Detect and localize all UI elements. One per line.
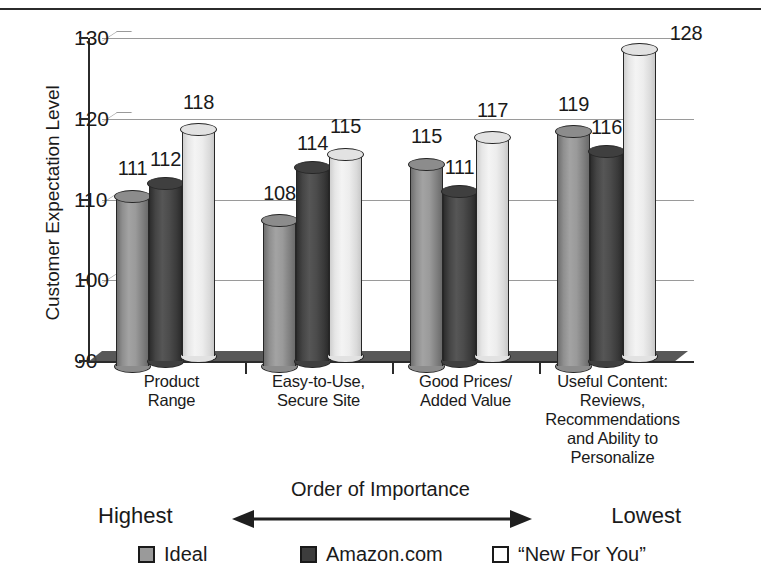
- bar-cylinder: [590, 151, 623, 361]
- bar-cylinder: [329, 154, 362, 356]
- plot-area: 90100110120130 1111121181081141151151111…: [88, 30, 694, 366]
- order-of-importance-row: Highest Lowest: [0, 503, 761, 537]
- page-top-rule: [0, 8, 761, 10]
- x-category-label: Easy-to-Use, Secure Site: [239, 372, 399, 410]
- bar-top-ellipse: [408, 158, 444, 171]
- bar-value-label: 118: [183, 91, 214, 114]
- bar-cylinder: [182, 130, 215, 356]
- y-tick-mark: [79, 118, 88, 120]
- bar-body: [476, 138, 509, 356]
- bar-body: [590, 151, 623, 361]
- x-category-label: Product Range: [92, 372, 252, 410]
- bar-body: [557, 132, 590, 366]
- bar-top-ellipse: [621, 43, 657, 56]
- legend-label: “New For You”: [518, 543, 646, 566]
- legend-label: Ideal: [164, 543, 207, 566]
- order-label-lowest: Lowest: [611, 503, 681, 529]
- bar-cylinder: [557, 132, 590, 366]
- bar-value-label: 108: [263, 182, 295, 205]
- bar-value-label: 115: [411, 125, 442, 148]
- bar-body: [182, 130, 215, 356]
- bar-cylinder: [263, 221, 296, 366]
- bar-top-ellipse: [147, 177, 183, 190]
- bar-body: [149, 183, 182, 361]
- bar-value-label: 116: [591, 116, 622, 139]
- legend: IdealAmazon.com“New For You”: [0, 543, 761, 573]
- bar-value-label: 114: [297, 132, 328, 155]
- bar-value-label: 115: [330, 115, 361, 138]
- bar-body: [410, 164, 443, 366]
- bar-top-ellipse: [261, 214, 297, 227]
- legend-swatch-icon: [300, 546, 317, 563]
- bar-cylinder: [443, 191, 476, 361]
- bar-cylinder: [149, 183, 182, 361]
- y-tick-mark: [79, 199, 88, 201]
- bar-value-label: 128: [670, 22, 702, 45]
- bar-top-ellipse: [441, 185, 477, 198]
- bar-body: [116, 196, 149, 366]
- bar-cylinder: [476, 138, 509, 356]
- bar-value-label: 112: [150, 148, 181, 171]
- legend-item[interactable]: “New For You”: [492, 543, 646, 566]
- bar-body: [329, 154, 362, 356]
- bar-chart-figure: Customer Expectation Level 9010011012013…: [0, 0, 761, 583]
- bar-top-ellipse: [327, 148, 363, 161]
- legend-swatch-icon: [138, 546, 155, 563]
- order-of-importance-title: Order of Importance: [0, 478, 761, 501]
- y-tick-mark: [79, 37, 88, 39]
- bar-value-label: 111: [118, 157, 148, 180]
- bar-top-ellipse: [294, 161, 330, 174]
- gridline: [102, 38, 694, 39]
- bar-body: [263, 221, 296, 366]
- bar-cylinder: [623, 49, 656, 356]
- y-axis-title: Customer Expectation Level: [42, 38, 64, 368]
- legend-item[interactable]: Ideal: [138, 543, 207, 566]
- bar-body: [443, 191, 476, 361]
- legend-swatch-icon: [492, 546, 509, 563]
- bar-value-label: 117: [477, 99, 508, 122]
- legend-label: Amazon.com: [326, 543, 443, 566]
- legend-item[interactable]: Amazon.com: [300, 543, 443, 566]
- y-tick-mark: [79, 279, 88, 281]
- bar-cylinder: [296, 167, 329, 361]
- x-category-label: Useful Content: Reviews, Recommendations…: [533, 372, 693, 467]
- bar-top-ellipse: [114, 190, 150, 203]
- bar-top-ellipse: [588, 145, 624, 158]
- bar-body: [296, 167, 329, 361]
- bar-cylinder: [116, 196, 149, 366]
- bar-body: [623, 49, 656, 356]
- x-category-label: Good Prices/ Added Value: [386, 372, 546, 410]
- order-label-highest: Highest: [98, 503, 173, 529]
- double-arrow-icon: [232, 509, 532, 529]
- bar-value-label: 119: [558, 93, 589, 116]
- bar-cylinder: [410, 164, 443, 366]
- y-tick-mark: [79, 360, 88, 362]
- bar-value-label: 111: [445, 156, 475, 179]
